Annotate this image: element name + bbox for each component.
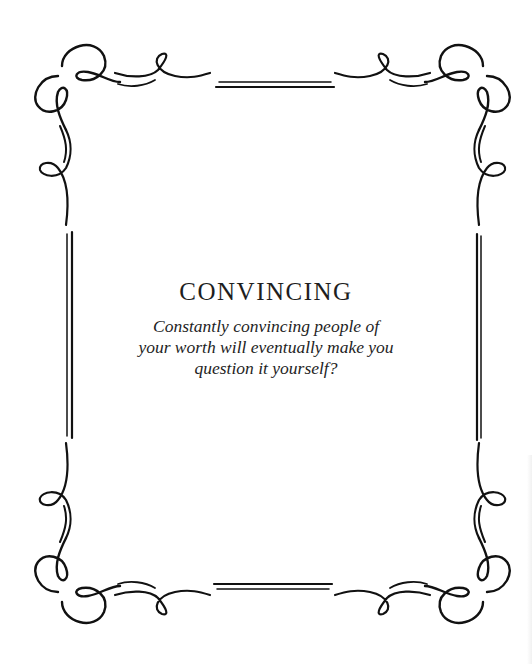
corner-flourish-bottom-right bbox=[335, 443, 510, 623]
quote-line: your worth will eventually make you bbox=[0, 337, 532, 358]
card-title: CONVINCING bbox=[0, 276, 532, 308]
quote-line: question it yourself? bbox=[0, 358, 532, 379]
quote-text: Constantly convincing people of your wor… bbox=[0, 316, 532, 379]
corner-flourish-top-left bbox=[35, 45, 210, 225]
corner-flourish-bottom-left bbox=[35, 443, 210, 623]
corner-flourish-top-right bbox=[335, 45, 510, 225]
page-edge-shadow bbox=[527, 455, 532, 664]
quote-line: Constantly convincing people of bbox=[0, 316, 532, 337]
